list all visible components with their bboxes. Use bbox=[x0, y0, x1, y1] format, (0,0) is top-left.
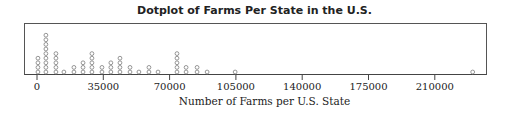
x-axis-tick-label: 105000 bbox=[217, 81, 255, 92]
data-dot bbox=[109, 70, 113, 74]
data-dot bbox=[118, 56, 122, 60]
data-dot bbox=[90, 61, 94, 65]
data-dot bbox=[184, 66, 188, 70]
data-dot bbox=[109, 61, 113, 65]
x-axis-tick-label: 70000 bbox=[154, 81, 186, 92]
data-dot bbox=[128, 70, 132, 74]
data-dot bbox=[81, 70, 85, 74]
data-dot bbox=[54, 52, 58, 56]
data-dot bbox=[156, 70, 160, 74]
data-dot bbox=[44, 38, 48, 42]
data-dot bbox=[62, 70, 66, 74]
data-dot bbox=[90, 56, 94, 60]
data-dot bbox=[128, 66, 132, 70]
data-dot bbox=[54, 56, 58, 60]
data-dot bbox=[90, 70, 94, 74]
data-dot bbox=[195, 66, 199, 70]
x-axis-tick-label: 140000 bbox=[283, 81, 321, 92]
data-dot bbox=[471, 70, 475, 74]
data-dot bbox=[233, 70, 237, 74]
data-dot bbox=[195, 70, 199, 74]
data-dot bbox=[44, 70, 48, 74]
data-dot bbox=[36, 66, 40, 70]
data-dot bbox=[184, 70, 188, 74]
data-dot bbox=[36, 56, 40, 60]
data-dot bbox=[205, 70, 209, 74]
data-dot bbox=[118, 61, 122, 65]
data-dot bbox=[54, 61, 58, 65]
data-dot bbox=[36, 61, 40, 65]
data-dot bbox=[175, 56, 179, 60]
data-dot bbox=[44, 33, 48, 37]
data-dot bbox=[175, 66, 179, 70]
data-dot bbox=[54, 70, 58, 74]
data-dot bbox=[44, 52, 48, 56]
x-axis-tick-label: 210000 bbox=[416, 81, 454, 92]
data-dot bbox=[36, 70, 40, 74]
data-dot bbox=[44, 66, 48, 70]
data-dot bbox=[100, 70, 104, 74]
data-dot bbox=[44, 47, 48, 51]
data-dot bbox=[175, 70, 179, 74]
data-dot bbox=[118, 70, 122, 74]
data-dot bbox=[100, 66, 104, 70]
x-axis-tick-label: 175000 bbox=[349, 81, 387, 92]
data-dot bbox=[44, 43, 48, 47]
data-dot bbox=[118, 66, 122, 70]
data-dot bbox=[44, 61, 48, 65]
data-dot bbox=[175, 52, 179, 56]
data-dot bbox=[72, 66, 76, 70]
data-dot bbox=[72, 70, 76, 74]
data-dot bbox=[54, 66, 58, 70]
data-dot bbox=[81, 66, 85, 70]
data-dot bbox=[175, 61, 179, 65]
data-dot bbox=[147, 66, 151, 70]
x-axis-tick-label: 35000 bbox=[87, 81, 119, 92]
x-axis-label: Number of Farms per U.S. State bbox=[0, 95, 509, 107]
data-dot bbox=[90, 52, 94, 56]
data-dot bbox=[90, 66, 94, 70]
data-dot bbox=[137, 70, 141, 74]
data-dot bbox=[81, 61, 85, 65]
data-dot bbox=[44, 56, 48, 60]
data-dot bbox=[147, 70, 151, 74]
x-axis-tick-label: 0 bbox=[34, 81, 40, 92]
data-dot bbox=[109, 66, 113, 70]
